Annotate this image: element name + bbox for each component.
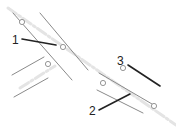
edge-line xyxy=(12,57,44,75)
callout-label-1: 1 xyxy=(12,33,19,47)
diagram-canvas: 1 2 3 xyxy=(0,0,176,129)
callout-label-2: 2 xyxy=(89,104,96,118)
hole-circle xyxy=(45,61,50,66)
callout-label-3: 3 xyxy=(117,54,124,68)
edge-line xyxy=(99,73,152,104)
hole-circle xyxy=(60,44,65,49)
leader-line-1 xyxy=(22,39,56,45)
edge-line xyxy=(97,90,143,113)
center-line xyxy=(20,66,55,88)
hole-circle xyxy=(151,103,156,108)
edge-lines xyxy=(12,13,152,113)
hole-circle xyxy=(100,80,105,85)
leader-line-2 xyxy=(99,94,130,110)
leader-line-3 xyxy=(128,65,160,86)
hole-circle xyxy=(19,19,24,24)
